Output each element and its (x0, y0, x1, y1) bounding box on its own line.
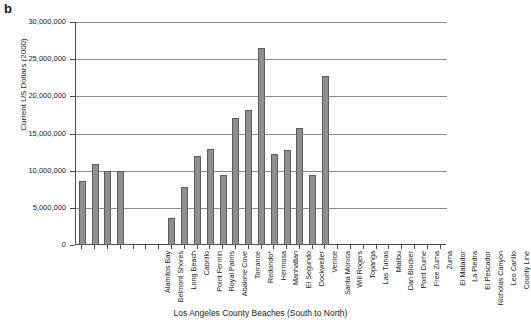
y-axis-tick (70, 22, 75, 23)
y-axis-tick (70, 134, 75, 135)
x-axis-category-label: La Piedra (471, 251, 478, 327)
x-axis-tick (171, 245, 172, 249)
x-axis-tick (350, 245, 351, 249)
bar (168, 218, 175, 245)
x-axis-category-label: Cabrillo (203, 251, 210, 327)
x-axis-tick (401, 245, 402, 249)
x-axis-tick (120, 245, 121, 249)
y-axis-tick-label: 25,000,000 (0, 55, 66, 63)
x-axis-tick (133, 245, 134, 249)
y-axis-tick-label: 10,000,000 (0, 167, 66, 175)
bar (79, 181, 86, 245)
x-axis-category-label: Dan Blocker (407, 251, 414, 327)
x-axis-tick (107, 245, 108, 249)
bar (284, 150, 291, 245)
x-axis-category-label: Point Fermin (216, 251, 223, 327)
x-axis-tick (414, 245, 415, 249)
y-axis-tick (70, 208, 75, 209)
y-axis-tick (70, 245, 75, 246)
x-axis-tick (222, 245, 223, 249)
x-axis-category-label: Torrance (254, 251, 261, 327)
panel-letter: b (4, 2, 12, 15)
bar (92, 164, 99, 245)
x-axis-category-label: Las Tunas (382, 251, 389, 327)
x-axis-tick (209, 245, 210, 249)
bar (271, 154, 278, 245)
x-axis-category-label: El Pescador (484, 251, 491, 327)
x-axis-category-label: Will Rogers (356, 251, 363, 327)
x-axis-tick (376, 245, 377, 249)
x-axis-category-label: Point Dume (420, 251, 427, 327)
x-axis-category-label: Zuma (446, 251, 453, 327)
bar (296, 128, 303, 245)
x-axis-tick (145, 245, 146, 249)
x-axis-tick (440, 245, 441, 249)
x-axis-tick (363, 245, 364, 249)
bar (207, 149, 214, 245)
x-axis-category-label: Redondo* (267, 251, 274, 327)
x-axis-category-label: Leo Carillo (510, 251, 517, 327)
plot-area (75, 22, 446, 245)
x-axis-tick (427, 245, 428, 249)
x-axis-tick (184, 245, 185, 249)
x-axis-category-label: County Line (523, 251, 530, 327)
y-axis-tick-label: 20,000,000 (0, 92, 66, 100)
x-axis-tick (299, 245, 300, 249)
bar (117, 171, 124, 245)
x-axis-category-label: Belmont Shores (177, 251, 184, 327)
bar (258, 48, 265, 245)
bar (220, 175, 227, 245)
x-axis-tick (81, 245, 82, 249)
y-axis-tick (70, 96, 75, 97)
x-axis-tick (312, 245, 313, 249)
x-axis-category-label: Topanga (369, 251, 376, 327)
x-axis-category-label: El Segundo (305, 251, 312, 327)
y-axis-tick (70, 59, 75, 60)
bar-series (76, 22, 447, 245)
bar (194, 156, 201, 245)
x-axis-category-label: Nicholas Canyon (497, 251, 504, 327)
bar (309, 175, 316, 245)
x-axis-category-label: Royal Palms (228, 251, 235, 327)
x-axis-tick (261, 245, 262, 249)
x-axis-tick (324, 245, 325, 249)
x-axis-tick (388, 245, 389, 249)
x-axis-category-label: Santa Monica (344, 251, 351, 327)
x-axis-category-label: Abalone Cove (241, 251, 248, 327)
x-axis-category-label: Free Zuma (433, 251, 440, 327)
x-axis-category-label: Hermosa (280, 251, 287, 327)
x-axis-tick (197, 245, 198, 249)
bar (104, 171, 111, 245)
x-axis-tick (273, 245, 274, 249)
x-axis-tick (235, 245, 236, 249)
y-axis-tick-label: 15,000,000 (0, 130, 66, 138)
x-axis-tick (248, 245, 249, 249)
y-axis-tick-label: 5,000,000 (0, 204, 66, 212)
bar (322, 76, 329, 245)
y-axis-tick (70, 171, 75, 172)
x-axis-category-label: El Matador (459, 251, 466, 327)
y-axis-tick-label: 30,000,000 (0, 18, 66, 26)
y-axis-tick-label: 0 (0, 241, 66, 249)
x-axis-tick (158, 245, 159, 249)
bar (245, 110, 252, 245)
x-axis-tick (94, 245, 95, 249)
x-axis-category-label: Dockweiler (318, 251, 325, 327)
x-axis-category-label: Manhattan (292, 251, 299, 327)
x-axis-tick (286, 245, 287, 249)
bar (181, 187, 188, 245)
bar (232, 118, 239, 245)
x-axis-category-label: Long Beach (190, 251, 197, 327)
x-axis-category-label: Venice (331, 251, 338, 327)
x-axis-tick (337, 245, 338, 249)
x-axis-category-label: Alamitos Bay (164, 251, 171, 327)
x-axis-category-label: Malibu (395, 251, 402, 327)
